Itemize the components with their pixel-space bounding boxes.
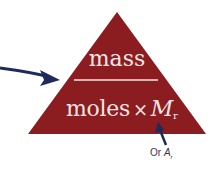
triangle-graphic: [0, 0, 222, 174]
mr-subscript: r: [173, 110, 177, 121]
moles-term: moles: [66, 96, 130, 121]
denominator-label: moles×Mr: [66, 96, 177, 121]
alternative-note: Or Ar: [150, 147, 173, 160]
ar-subscript: r: [171, 154, 173, 160]
multiply-operator: ×: [133, 99, 148, 120]
ar-term: A: [164, 147, 171, 158]
note-prefix: Or: [150, 147, 161, 158]
mr-term: M: [151, 96, 173, 121]
numerator-label: mass: [0, 46, 222, 71]
formula-triangle-diagram: mass moles×Mr Or Ar: [0, 0, 222, 174]
